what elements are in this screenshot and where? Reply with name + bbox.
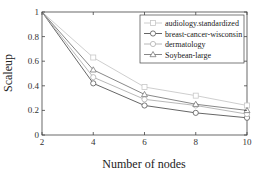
- circle-marker: [142, 103, 147, 108]
- legend-label: dermatology: [165, 40, 205, 49]
- triangle-marker: [142, 91, 148, 96]
- circle-marker: [193, 110, 198, 115]
- y-axis-label: Scaleup: [1, 54, 15, 92]
- y-tick-label: 1: [35, 7, 40, 17]
- square-marker: [193, 93, 198, 98]
- square-marker: [91, 55, 96, 60]
- square-marker: [142, 85, 147, 90]
- circle-marker: [142, 97, 147, 102]
- circle-marker: [91, 75, 96, 80]
- line-chart: 24681000.20.40.60.81 Number of nodes Sca…: [0, 0, 264, 176]
- y-tick-label: 0.4: [28, 81, 40, 91]
- x-tick-label: 10: [243, 137, 253, 147]
- y-tick-label: 0: [35, 130, 40, 140]
- y-tick-label: 0.6: [28, 56, 40, 66]
- x-tick-label: 4: [91, 137, 96, 147]
- x-tick-label: 8: [194, 137, 199, 147]
- x-tick-label: 6: [142, 137, 147, 147]
- legend-label: audiology.standardized: [165, 19, 239, 28]
- y-tick-label: 0.2: [28, 105, 39, 115]
- x-axis-label: Number of nodes: [102, 157, 186, 171]
- y-tick-label: 0.8: [28, 32, 40, 42]
- legend: audiology.standardizedbreast-cancer-wisc…: [140, 15, 244, 63]
- circle-marker: [91, 81, 96, 86]
- x-tick-label: 2: [40, 137, 45, 147]
- legend-label: breast-cancer-wisconsin: [165, 30, 242, 39]
- circle-marker: [150, 41, 155, 46]
- square-marker: [151, 21, 156, 26]
- circle-marker: [150, 31, 155, 36]
- legend-label: Soybean-large: [165, 51, 212, 60]
